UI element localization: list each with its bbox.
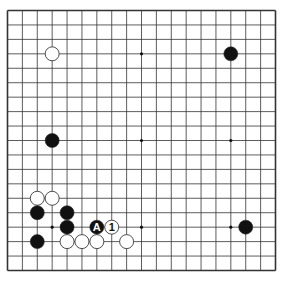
black-stone [45,134,59,148]
star-point-icon [140,52,143,55]
go-board: A1 [0,0,281,281]
white-stone: 1 [105,220,119,234]
black-stone [224,47,238,61]
stone-label: 1 [109,221,115,233]
star-point-icon [140,226,143,229]
white-stone [30,191,44,205]
black-stone [60,206,74,220]
black-stone: A [90,220,104,234]
white-stone [90,235,104,249]
white-stone [45,191,59,205]
star-point-icon [51,226,54,229]
star-point-icon [229,226,232,229]
star-point-icon [229,139,232,142]
white-stone [75,235,89,249]
black-stone [30,206,44,220]
star-point-icon [140,139,143,142]
black-stone [239,220,253,234]
black-stone [30,235,44,249]
white-stone [120,235,134,249]
white-stone [45,47,59,61]
stone-label: A [93,221,101,233]
black-stone [60,220,74,234]
white-stone [60,235,74,249]
